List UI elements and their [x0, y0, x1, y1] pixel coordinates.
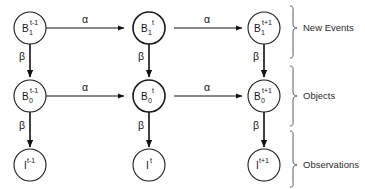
- node-b1-prev[interactable]: B 1 t-1: [14, 12, 46, 44]
- group-brace-new-events: New Events: [290, 6, 354, 58]
- node-label-superscript: t+1: [262, 87, 272, 94]
- node-label-superscript: t-1: [30, 19, 38, 26]
- node-i-next[interactable]: I t+1: [248, 149, 280, 181]
- brace-icon: [290, 6, 297, 58]
- edge-label-beta: β: [19, 50, 25, 62]
- node-label-subscript: 1: [148, 29, 152, 36]
- edge-label-beta: β: [138, 50, 144, 62]
- diagram-canvas: α α α α β β β β β β: [0, 0, 365, 189]
- edge-group-events-to-objects: β β β: [19, 44, 264, 77]
- node-circle[interactable]: [133, 80, 165, 112]
- node-label-base: I: [146, 160, 149, 171]
- node-label-subscript: 1: [29, 29, 33, 36]
- edge-label-alpha: α: [82, 13, 88, 25]
- group-label-new-events: New Events: [303, 22, 354, 33]
- edge-label-alpha: α: [82, 81, 88, 93]
- node-label-superscript: t-1: [27, 157, 35, 164]
- node-circle[interactable]: [14, 149, 46, 181]
- node-b0-next[interactable]: B 0 t+1: [248, 80, 280, 112]
- group-label-objects: Objects: [303, 90, 335, 101]
- node-circle[interactable]: [248, 149, 280, 181]
- node-circle[interactable]: [14, 12, 46, 44]
- node-label-superscript: t+1: [262, 19, 272, 26]
- node-label-subscript: 0: [261, 97, 265, 104]
- node-i-prev[interactable]: I t-1: [14, 149, 46, 181]
- edge-label-beta: β: [253, 119, 259, 131]
- node-b0-prev[interactable]: B 0 t-1: [14, 80, 46, 112]
- node-label-subscript: 1: [261, 29, 265, 36]
- node-circle[interactable]: [133, 12, 165, 44]
- node-label-subscript: 0: [29, 97, 33, 104]
- node-i-curr[interactable]: I t: [133, 149, 165, 181]
- node-label-base: B: [141, 23, 148, 34]
- edge-label-alpha: α: [204, 81, 210, 93]
- node-circle[interactable]: [248, 80, 280, 112]
- group-brace-observations: Observations: [290, 131, 359, 187]
- node-label-superscript: t: [152, 19, 154, 26]
- node-b0-curr[interactable]: B 0 t: [133, 80, 165, 112]
- node-b1-curr[interactable]: B 1 t: [133, 12, 165, 44]
- node-label-superscript: t: [150, 157, 152, 164]
- edge-label-alpha: α: [204, 13, 210, 25]
- node-b1-next[interactable]: B 1 t+1: [248, 12, 280, 44]
- node-label-base: B: [141, 91, 148, 102]
- node-label-base: B: [254, 23, 261, 34]
- node-circle[interactable]: [248, 12, 280, 44]
- node-circle[interactable]: [14, 80, 46, 112]
- node-label-base: B: [22, 91, 29, 102]
- node-circle[interactable]: [133, 149, 165, 181]
- diagram-root: α α α α β β β β β β: [0, 0, 365, 189]
- brace-icon: [290, 66, 297, 126]
- node-label-base: B: [22, 23, 29, 34]
- node-label-superscript: t-1: [30, 87, 38, 94]
- node-label-superscript: t+1: [259, 157, 269, 164]
- node-label-superscript: t: [152, 87, 154, 94]
- edge-label-beta: β: [138, 119, 144, 131]
- edge-group-objects-to-observations: β β β: [19, 112, 264, 147]
- group-label-observations: Observations: [303, 159, 359, 170]
- group-brace-objects: Objects: [290, 66, 335, 126]
- brace-icon: [290, 131, 297, 187]
- node-label-base: B: [254, 91, 261, 102]
- edge-label-beta: β: [253, 50, 259, 62]
- node-label-subscript: 0: [148, 97, 152, 104]
- edge-label-beta: β: [19, 119, 25, 131]
